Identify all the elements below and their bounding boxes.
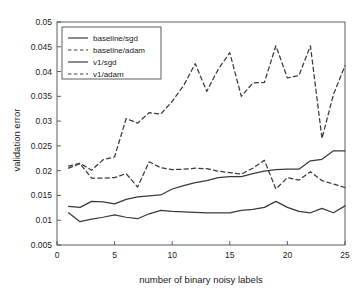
y-tick-label: 0.01: [35, 215, 52, 225]
y-axis-ticks: [57, 22, 61, 245]
x-tick-label: 15: [225, 250, 235, 260]
series-line-baseline-adam: [69, 160, 345, 189]
y-tick-label: 0.03: [35, 116, 52, 126]
x-tick-label: 5: [112, 250, 117, 260]
legend-label-baseline-sgd: baseline/sgd: [93, 34, 138, 43]
legend-label-v1-sgd: v1/sgd: [93, 58, 117, 67]
x-axis-tick-labels: 0510152025: [55, 250, 350, 260]
x-tick-label: 25: [340, 250, 350, 260]
legend-label-v1-adam: v1/adam: [93, 70, 124, 79]
chart-legend: baseline/sgdbaseline/adamv1/sgdv1/adam: [62, 27, 161, 79]
y-tick-label: 0.005: [31, 240, 53, 250]
x-axis-ticks: [57, 241, 345, 245]
x-tick-label: 10: [167, 250, 177, 260]
y-tick-label: 0.045: [31, 42, 53, 52]
y-tick-label: 0.025: [31, 141, 53, 151]
series-line-baseline-sgd: [69, 151, 345, 208]
y-tick-label: 0.035: [31, 91, 53, 101]
x-axis-label: number of binary noisy labels: [139, 274, 263, 285]
y-tick-label: 0.02: [35, 166, 52, 176]
y-tick-label: 0.04: [35, 67, 52, 77]
y-axis-tick-labels: 0.0050.010.0150.020.0250.030.0350.040.04…: [31, 17, 53, 250]
chart-figure: 0.0050.010.0150.020.0250.030.0350.040.04…: [0, 0, 359, 291]
series-line-v1-sgd: [69, 201, 345, 221]
y-tick-label: 0.05: [35, 17, 52, 27]
y-axis-label: validation error: [11, 109, 22, 172]
x-tick-label: 0: [55, 250, 60, 260]
x-tick-label: 20: [283, 250, 293, 260]
legend-label-baseline-adam: baseline/adam: [93, 46, 145, 55]
line-chart: 0.0050.010.0150.020.0250.030.0350.040.04…: [0, 0, 359, 291]
y-tick-label: 0.015: [31, 190, 53, 200]
